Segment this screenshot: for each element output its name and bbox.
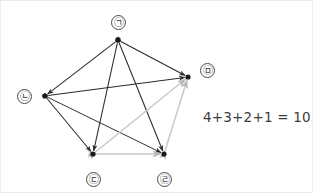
node-label-n5: ㉤ [200,63,215,78]
graph-node-dot-n3 [90,151,95,156]
graph-edge-n1-n2 [48,42,116,94]
node-label-n4: ㉣ [157,172,172,187]
graph-node-dot-n1 [115,37,120,42]
graph-edge-n1-n3 [94,43,118,151]
equation-annotation: 4+3+2+1 = 10개 [203,106,313,126]
edge-layer [47,41,187,154]
complete-graph-svg [1,1,313,193]
node-label-n1: ㉠ [111,15,126,30]
node-label-n3: ㉢ [86,172,101,187]
graph-edge-n2-n5 [48,77,185,95]
graph-node-dot-n2 [42,93,47,98]
graph-edge-n4-n5 [165,80,187,151]
graph-node-dot-n5 [185,74,190,79]
graph-node-dot-n4 [161,151,166,156]
graph-edge-n2-n3 [47,98,91,151]
graph-edge-n3-n5 [95,79,185,152]
node-label-n2: ㉡ [17,89,32,104]
diagram-canvas: ㉠㉡㉢㉣㉤ 4+3+2+1 = 10개 [0,0,313,193]
